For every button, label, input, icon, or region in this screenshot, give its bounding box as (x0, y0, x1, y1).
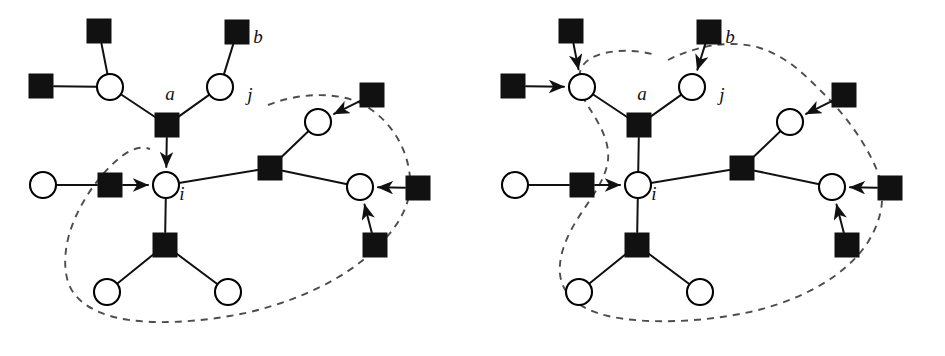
factor-node-middle[interactable] (730, 156, 754, 180)
factor-node-upper-right[interactable] (360, 83, 384, 107)
message-arrow (365, 204, 372, 232)
factor-node-lower-right[interactable] (835, 233, 859, 257)
graph-edge (651, 170, 729, 183)
node-label-b: b (253, 26, 263, 47)
factor-node-far-left[interactable] (501, 74, 525, 98)
message-arrow (837, 204, 844, 232)
variable-node-left[interactable] (502, 172, 528, 198)
message-arrow (526, 86, 564, 87)
node-label-i: i (179, 183, 184, 204)
factor-node-b[interactable] (225, 20, 249, 44)
graph-edge (121, 94, 156, 118)
graph-edge (165, 198, 166, 232)
variable-node-j[interactable] (207, 74, 233, 100)
node-label-i: i (651, 183, 656, 204)
graph-edge (102, 44, 108, 74)
graph-edge (755, 171, 820, 185)
panel-right-canvas: abij (472, 0, 945, 356)
graph-edge (279, 131, 308, 159)
factor-graph-figure: abij abij (0, 0, 945, 356)
node-label-j: j (244, 84, 252, 105)
factor-node-mid-left[interactable] (570, 173, 594, 197)
graph-edge (54, 86, 97, 87)
node-label-b: b (725, 26, 735, 47)
factor-node-upper-right[interactable] (832, 83, 856, 107)
panel-left: abij (0, 0, 473, 356)
factor-node-lower-right[interactable] (363, 233, 387, 257)
graph-edge (638, 138, 639, 172)
variable-node-right[interactable] (347, 174, 373, 200)
factor-node-a[interactable] (155, 113, 179, 137)
graph-edge (637, 198, 638, 232)
variable-node-right[interactable] (819, 174, 845, 200)
messages-layer-right (526, 44, 877, 233)
variable-node-i[interactable] (153, 172, 179, 198)
factor-node-bottom[interactable] (625, 233, 649, 257)
graph-edge (179, 170, 257, 183)
variable-node-bottom-left[interactable] (94, 279, 120, 305)
graph-edge (647, 253, 689, 284)
nodes-layer-left (29, 19, 430, 305)
graph-edge (175, 253, 217, 284)
message-arrow (574, 44, 579, 70)
factor-node-top[interactable] (559, 19, 583, 43)
factor-node-b[interactable] (697, 20, 721, 44)
panel-right: abij (472, 0, 945, 356)
graph-edge (593, 94, 628, 118)
factor-node-far-right[interactable] (878, 176, 902, 200)
variable-node-top-left[interactable] (569, 74, 595, 100)
factor-node-top[interactable] (87, 19, 111, 43)
factor-node-far-left[interactable] (29, 74, 53, 98)
node-label-j: j (716, 84, 724, 105)
variable-node-upper-right[interactable] (305, 109, 331, 135)
graph-edge (178, 95, 210, 118)
factor-node-mid-left[interactable] (98, 173, 122, 197)
message-arrow (334, 101, 360, 114)
variable-node-bottom-right[interactable] (215, 279, 241, 305)
variable-node-upper-right[interactable] (777, 109, 803, 135)
graph-edge (283, 171, 348, 185)
variable-node-i[interactable] (625, 172, 651, 198)
node-label-a: a (637, 83, 647, 104)
factor-node-a[interactable] (627, 113, 651, 137)
graph-edge (117, 253, 155, 284)
factor-node-far-right[interactable] (406, 176, 430, 200)
graph-edge (589, 253, 627, 284)
variable-node-left[interactable] (30, 172, 56, 198)
message-arrow (806, 101, 832, 114)
graph-edge (751, 131, 780, 159)
factor-node-bottom[interactable] (153, 233, 177, 257)
node-label-a: a (165, 83, 175, 104)
variable-node-bottom-left[interactable] (566, 279, 592, 305)
variable-node-top-left[interactable] (97, 74, 123, 100)
variable-node-j[interactable] (679, 74, 705, 100)
variable-node-bottom-right[interactable] (687, 279, 713, 305)
graph-edge (224, 44, 233, 74)
panel-left-canvas: abij (0, 0, 473, 356)
graph-edge (650, 95, 682, 118)
factor-node-middle[interactable] (258, 156, 282, 180)
